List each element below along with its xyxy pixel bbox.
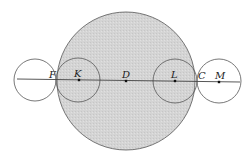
small-circle-left-outer bbox=[14, 59, 56, 101]
point-label-m: M bbox=[214, 70, 226, 81]
geometry-diagram: FKDLCM bbox=[0, 0, 252, 160]
point-l-marker bbox=[174, 80, 176, 82]
point-label-c: C bbox=[198, 70, 206, 81]
point-m-marker bbox=[218, 81, 220, 83]
point-label-d: D bbox=[121, 69, 130, 80]
point-k-marker bbox=[78, 79, 80, 81]
point-d-marker bbox=[125, 80, 127, 82]
point-label-k: K bbox=[73, 68, 82, 79]
point-label-f: F bbox=[48, 69, 57, 80]
point-label-l: L bbox=[170, 69, 178, 80]
